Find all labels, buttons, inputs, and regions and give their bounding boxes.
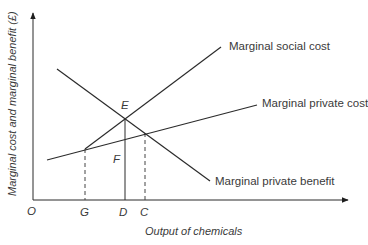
- tick-c-label: C: [140, 206, 149, 218]
- mpb-label: Marginal private benefit: [215, 175, 335, 187]
- marginal-social-cost-curve: [85, 47, 221, 149]
- point-e-label: E: [121, 99, 129, 111]
- origin-label: O: [27, 205, 36, 217]
- msc-label: Marginal social cost: [229, 40, 331, 52]
- x-axis-title: Output of chemicals: [145, 225, 243, 237]
- marginal-private-benefit-curve: [57, 69, 210, 181]
- point-f-label: F: [113, 153, 121, 165]
- tick-d-label: D: [119, 206, 127, 218]
- externality-diagram: Marginal social cost Marginal private co…: [0, 0, 368, 245]
- y-axis-title: Marginal cost and marginal benefit (£): [6, 11, 18, 196]
- tick-g-label: G: [80, 206, 89, 218]
- marginal-private-cost-curve: [47, 105, 257, 160]
- mpc-label: Marginal private cost: [262, 97, 368, 109]
